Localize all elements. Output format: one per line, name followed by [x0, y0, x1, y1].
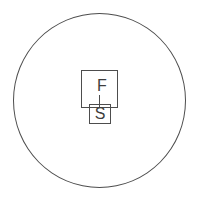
- f-label: F: [97, 78, 107, 94]
- f-to-s-circle-icon: F S: [0, 0, 198, 201]
- s-label: S: [95, 106, 106, 122]
